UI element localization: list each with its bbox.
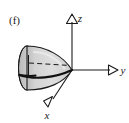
panel-label: (f): [9, 14, 20, 27]
y-axis-label: y: [120, 64, 126, 76]
z-axis-label: z: [77, 12, 83, 24]
paraboloid-cap-trace: [20, 75, 36, 76]
coordinate-figure: (f) z y x: [0, 0, 129, 123]
x-axis-arrow-icon: [44, 97, 53, 107]
figure-panel: (f) z y x: [0, 0, 129, 123]
x-axis-label: x: [44, 109, 50, 121]
